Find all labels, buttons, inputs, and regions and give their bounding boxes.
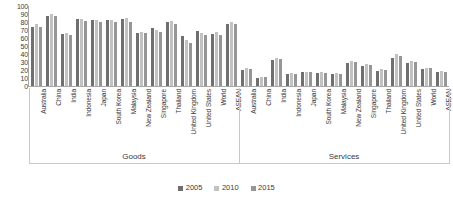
bar bbox=[421, 69, 424, 86]
bar bbox=[361, 66, 364, 86]
bar bbox=[155, 30, 158, 86]
bar bbox=[429, 68, 432, 86]
bar-group bbox=[119, 6, 134, 86]
category-tick: India bbox=[269, 88, 284, 150]
bar bbox=[391, 58, 394, 86]
category-tick: Singapore bbox=[359, 88, 374, 150]
category-tick: China bbox=[254, 88, 269, 150]
category-tick: China bbox=[44, 88, 59, 150]
bar bbox=[170, 21, 173, 86]
bar bbox=[256, 78, 259, 86]
bar-group bbox=[284, 6, 299, 86]
bar bbox=[275, 58, 278, 86]
y-axis-tick: 30 bbox=[21, 59, 28, 66]
y-axis-tick: 90 bbox=[21, 11, 28, 18]
bar-group bbox=[389, 6, 404, 86]
bar-group bbox=[344, 6, 359, 86]
bar bbox=[436, 72, 439, 86]
bar-chart: 0102030405060708090100 AustraliaChinaInd… bbox=[0, 0, 453, 203]
bar bbox=[301, 72, 304, 86]
legend-item[interactable]: 2005 bbox=[178, 184, 202, 192]
legend-label: 2005 bbox=[186, 184, 203, 192]
legend-swatch-icon bbox=[178, 186, 183, 191]
bar bbox=[226, 24, 229, 86]
bar bbox=[399, 56, 402, 86]
bar bbox=[249, 69, 252, 86]
bar bbox=[61, 34, 64, 86]
bar bbox=[369, 65, 372, 86]
plot-area: 0102030405060708090100 AustraliaChinaInd… bbox=[0, 0, 453, 203]
category-tick: Singapore bbox=[149, 88, 164, 150]
category-tick: Australia bbox=[239, 88, 254, 150]
bar bbox=[324, 73, 327, 86]
bar bbox=[46, 16, 49, 86]
bar bbox=[95, 20, 98, 86]
category-tick: ASEAN bbox=[434, 88, 449, 150]
bar-group bbox=[299, 6, 314, 86]
bar bbox=[144, 33, 147, 86]
bar bbox=[309, 72, 312, 86]
bar bbox=[410, 61, 413, 86]
bar-group bbox=[329, 6, 344, 86]
category-tick: Japan bbox=[299, 88, 314, 150]
bar bbox=[219, 35, 222, 86]
bar bbox=[204, 35, 207, 86]
bar bbox=[365, 64, 368, 86]
bar bbox=[140, 32, 143, 86]
bar-group bbox=[44, 6, 59, 86]
bar bbox=[50, 14, 53, 86]
category-tick: United Kingdom bbox=[389, 88, 404, 150]
bar bbox=[211, 34, 214, 86]
legend-swatch-icon bbox=[251, 186, 256, 191]
bar bbox=[69, 35, 72, 86]
bar bbox=[425, 68, 428, 86]
category-tick: New Zealand bbox=[344, 88, 359, 150]
bar bbox=[84, 21, 87, 86]
bar bbox=[444, 72, 447, 86]
bar-group bbox=[374, 6, 389, 86]
bar bbox=[80, 19, 83, 86]
bar bbox=[121, 19, 124, 86]
bar bbox=[31, 27, 34, 86]
x-axis-line bbox=[28, 86, 449, 87]
bar-group bbox=[269, 6, 284, 86]
bar bbox=[76, 19, 79, 86]
bar-group bbox=[149, 6, 164, 86]
legend-item[interactable]: 2015 bbox=[251, 184, 275, 192]
category-tick: Australia bbox=[29, 88, 44, 150]
bar-group bbox=[89, 6, 104, 86]
category-tick: World bbox=[209, 88, 224, 150]
bar bbox=[440, 71, 443, 86]
y-axis-tick: 70 bbox=[21, 27, 28, 34]
bar bbox=[320, 72, 323, 86]
bar bbox=[230, 22, 233, 86]
y-axis-tick: 80 bbox=[21, 19, 28, 26]
bar bbox=[346, 63, 349, 86]
bar bbox=[39, 27, 42, 86]
y-axis-tick: 100 bbox=[17, 3, 28, 10]
bar bbox=[316, 73, 319, 86]
bar bbox=[245, 68, 248, 86]
y-axis-tick: 50 bbox=[21, 43, 28, 50]
bar bbox=[35, 24, 38, 86]
bar bbox=[200, 33, 203, 86]
category-label: ASEAN bbox=[444, 89, 451, 111]
bar bbox=[395, 54, 398, 86]
bar bbox=[264, 77, 267, 86]
bar bbox=[241, 70, 244, 86]
bar bbox=[110, 20, 113, 86]
section-divider-bottom bbox=[29, 163, 450, 164]
y-axis-tick: 60 bbox=[21, 35, 28, 42]
section-labels: GoodsServices bbox=[29, 150, 449, 163]
bar-group bbox=[239, 6, 254, 86]
bar bbox=[290, 73, 293, 86]
bar-group bbox=[314, 6, 329, 86]
bar bbox=[65, 33, 68, 86]
bar bbox=[189, 43, 192, 86]
bar bbox=[125, 18, 128, 86]
bar-group bbox=[419, 6, 434, 86]
section-label: Services bbox=[239, 150, 449, 163]
category-tick: New Zealand bbox=[134, 88, 149, 150]
legend-item[interactable]: 2010 bbox=[214, 184, 238, 192]
bar bbox=[294, 74, 297, 86]
